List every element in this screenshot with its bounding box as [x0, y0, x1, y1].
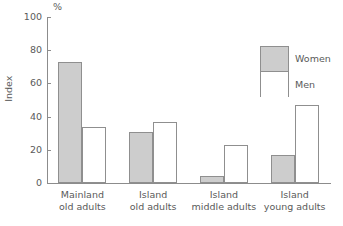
- legend-label-men: Men: [295, 80, 315, 90]
- y-axis-tick-label-80: 80: [16, 45, 42, 55]
- bar-men-0: [82, 127, 106, 183]
- bar-men-2: [224, 145, 248, 183]
- bar-women-1: [129, 132, 153, 183]
- legend-swatch-women: [261, 47, 288, 72]
- bar-women-3: [271, 155, 295, 183]
- bar-women-0: [58, 62, 82, 183]
- x-axis-label-1: Islandold adults: [118, 189, 189, 212]
- y-axis-tick-label-wrap-60: 60: [12, 83, 42, 84]
- x-axis-line: [47, 183, 331, 184]
- y-axis-tick-0: [47, 183, 51, 184]
- x-axis-label-3: Islandyoung adults: [259, 189, 330, 212]
- x-axis-label-0: Mainlandold adults: [47, 189, 118, 212]
- y-axis-tick-label-wrap-100: 100: [12, 17, 42, 18]
- y-axis-tick-label-100: 100: [16, 12, 42, 22]
- y-axis-tick-label-wrap-0: 0: [12, 183, 42, 184]
- y-axis-unit-label: %: [53, 2, 62, 12]
- legend-label-women: Women: [295, 54, 331, 64]
- bar-chart: % Index 020406080100 Mainlandold adultsI…: [0, 0, 343, 226]
- x-axis-label-2: Islandmiddle adults: [189, 189, 260, 212]
- bar-women-2: [200, 176, 224, 183]
- y-axis-title: Index: [4, 59, 14, 119]
- legend-swatch-men: [261, 73, 288, 98]
- y-axis-tick-label-40: 40: [16, 112, 42, 122]
- y-axis-tick-label-wrap-40: 40: [12, 117, 42, 118]
- y-axis-tick-label-0: 0: [16, 178, 42, 188]
- bar-men-1: [153, 122, 177, 183]
- y-axis-tick-label-20: 20: [16, 145, 42, 155]
- bar-men-3: [295, 105, 319, 183]
- y-axis-tick-label-60: 60: [16, 78, 42, 88]
- legend-swatch-box: [260, 46, 289, 97]
- y-axis-tick-label-wrap-80: 80: [12, 50, 42, 51]
- plot-area: [47, 17, 330, 183]
- y-axis-tick-label-wrap-20: 20: [12, 150, 42, 151]
